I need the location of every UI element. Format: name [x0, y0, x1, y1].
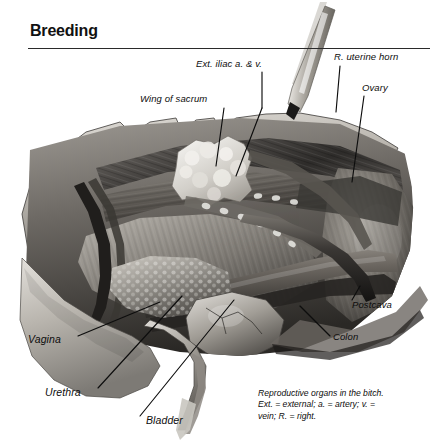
label-urethra: Urethra	[45, 386, 81, 398]
figure-caption: Reproductive organs in the bitch. Ext. =…	[258, 388, 438, 422]
label-ovary: Ovary	[362, 82, 388, 93]
label-colon: Colon	[333, 331, 358, 342]
label-wing-of-sacrum: Wing of sacrum	[140, 93, 207, 104]
bladder-highlight	[208, 305, 244, 327]
label-bladder: Bladder	[146, 414, 183, 426]
label-postcava: Postcava	[352, 299, 392, 310]
label-vagina: Vagina	[28, 333, 61, 345]
caption-line-1: Reproductive organs in the bitch.	[258, 388, 438, 399]
title-rule	[28, 48, 430, 49]
breeding-figure-page: Breeding Ext. iliac a. & v. R. uterine h…	[0, 0, 444, 443]
insemination-instrument	[286, 2, 335, 120]
caption-line-2: Ext. = external; a. = artery; v. =	[258, 399, 438, 410]
caption-line-3: vein; R. = right.	[258, 411, 438, 422]
label-ext-iliac: Ext. iliac a. & v.	[196, 58, 262, 69]
label-r-uterine-horn: R. uterine horn	[334, 51, 398, 62]
page-title: Breeding	[30, 22, 98, 40]
leader-r-uterine-horn	[336, 66, 340, 112]
